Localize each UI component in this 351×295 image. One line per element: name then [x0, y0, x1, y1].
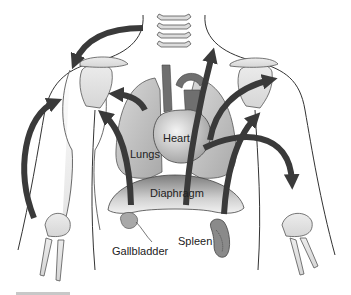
anatomy-diagram: [0, 0, 351, 295]
spleen: [210, 219, 229, 257]
label-gallbladder: Gallbladder: [112, 246, 168, 257]
right-elbow: [282, 213, 318, 275]
label-spleen: Spleen: [178, 236, 212, 247]
arrow-forearm-to-left-shoulder: [24, 102, 55, 218]
gallbladder: [120, 212, 152, 242]
label-lungs: Lungs: [130, 149, 160, 160]
label-diaphragm: Diaphragm: [150, 188, 204, 199]
left-elbow: [40, 213, 70, 281]
label-heart: Heart: [163, 133, 190, 144]
cervical-spine: [157, 14, 191, 47]
left-humerus-head: [80, 57, 128, 108]
